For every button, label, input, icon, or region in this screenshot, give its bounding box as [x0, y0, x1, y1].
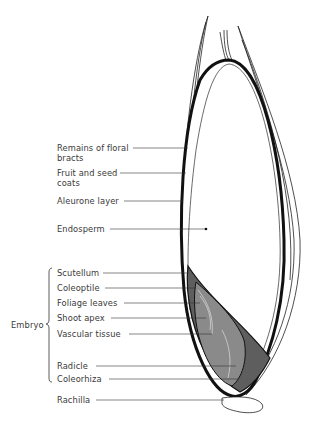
label-radicle: Radicle — [57, 361, 88, 371]
embryo-brace — [46, 268, 52, 382]
label-remains-floral-bracts: Remains of floral bracts — [57, 143, 129, 163]
label-rachilla: Rachilla — [57, 395, 90, 405]
label-foliage-leaves: Foliage leaves — [57, 298, 118, 308]
label-aleurone-layer: Aleurone layer — [57, 196, 119, 206]
grain-diagram — [0, 0, 316, 425]
label-coleorhiza: Coleorhiza — [57, 374, 102, 384]
label-fruit-seed-coats: Fruit and seed coats — [57, 168, 117, 188]
label-coleoptile: Coleoptile — [57, 283, 100, 293]
label-vascular-tissue: Vascular tissue — [57, 329, 121, 339]
rachilla-shape — [222, 397, 263, 413]
label-embryo-group: Embryo — [11, 320, 44, 330]
label-scutellum: Scutellum — [57, 268, 99, 278]
label-shoot-apex: Shoot apex — [57, 313, 105, 323]
label-endosperm: Endosperm — [57, 224, 105, 234]
